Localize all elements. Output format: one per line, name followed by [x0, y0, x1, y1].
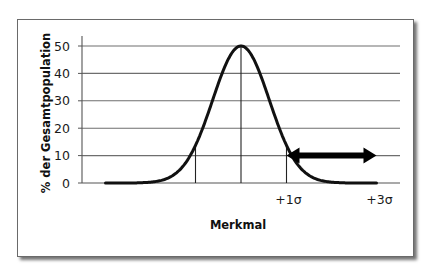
y-tick-label: 10: [54, 148, 70, 163]
y-tick-label: 30: [54, 93, 70, 108]
bell-curve-chart: 01020304050 +1σ+3σ Merkmal % der Gesamtp…: [0, 0, 435, 272]
y-tick-label: 0: [62, 176, 70, 191]
x-axis-title: Merkmal: [210, 218, 266, 232]
y-tick-labels: 01020304050: [54, 39, 70, 191]
y-tick-label: 50: [54, 39, 70, 54]
x-tick-label: +1σ: [275, 192, 301, 207]
y-tick-label: 20: [54, 121, 70, 136]
x-tick-label: +3σ: [366, 192, 392, 207]
y-tick-label: 40: [54, 66, 70, 81]
y-axis-title: % der Gesamtpopulation: [39, 33, 53, 193]
double-headed-arrow: [287, 148, 377, 164]
y-axis: [78, 36, 82, 183]
arrow-shape: [287, 148, 377, 164]
x-tick-labels: +1σ+3σ: [275, 192, 392, 207]
sigma-marker-lines: [150, 46, 332, 183]
